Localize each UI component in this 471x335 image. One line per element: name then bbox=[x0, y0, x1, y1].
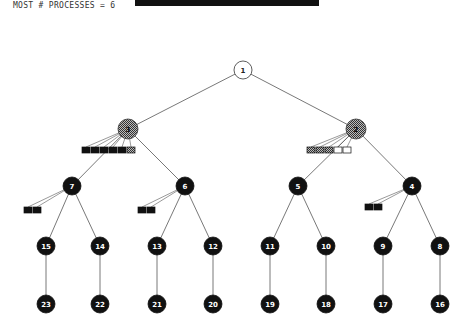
node-label: 16 bbox=[435, 301, 445, 309]
process-box-black bbox=[24, 207, 32, 213]
tree-node-9[interactable]: 9 bbox=[374, 237, 392, 255]
tree-node-13[interactable]: 13 bbox=[148, 237, 166, 255]
tree-edge bbox=[128, 129, 185, 186]
node-label: 23 bbox=[41, 301, 51, 309]
process-box-hatched bbox=[316, 147, 324, 153]
process-box-hatched bbox=[325, 147, 333, 153]
process-box-black bbox=[147, 207, 155, 213]
tree-node-14[interactable]: 14 bbox=[91, 237, 109, 255]
tree-node-11[interactable]: 11 bbox=[261, 237, 279, 255]
tree-edge bbox=[298, 186, 326, 246]
tree-edge bbox=[72, 186, 100, 246]
node-label: 3 bbox=[126, 126, 131, 134]
node-label: 6 bbox=[183, 183, 188, 191]
process-box-black bbox=[374, 204, 382, 210]
tree-node-21[interactable]: 21 bbox=[148, 295, 166, 313]
process-box-hatched bbox=[127, 147, 135, 153]
process-box-black bbox=[33, 207, 41, 213]
tree-node-15[interactable]: 15 bbox=[37, 237, 55, 255]
tree-node-1[interactable]: 1 bbox=[234, 61, 252, 79]
tree-node-10[interactable]: 10 bbox=[317, 237, 335, 255]
tree-edge bbox=[72, 129, 128, 186]
tree-node-3[interactable]: 3 bbox=[118, 119, 138, 139]
node-label: 17 bbox=[378, 301, 388, 309]
process-box-black bbox=[82, 147, 90, 153]
node-label: 21 bbox=[152, 301, 162, 309]
node-label: 11 bbox=[265, 243, 275, 251]
node-label: 10 bbox=[321, 243, 331, 251]
node-label: 1 bbox=[241, 67, 246, 75]
node-label: 22 bbox=[95, 301, 105, 309]
node-label: 13 bbox=[152, 243, 162, 251]
node-label: 12 bbox=[208, 243, 218, 251]
tree-edge bbox=[383, 186, 412, 246]
process-box-black bbox=[91, 147, 99, 153]
tree-edge bbox=[412, 186, 440, 246]
tree-node-12[interactable]: 12 bbox=[204, 237, 222, 255]
process-tree-diagram: 1327654151413121110982322212019181716 bbox=[0, 0, 471, 335]
process-box-black bbox=[100, 147, 108, 153]
tree-node-8[interactable]: 8 bbox=[431, 237, 449, 255]
process-box-empty bbox=[343, 147, 351, 153]
node-label: 14 bbox=[95, 243, 105, 251]
tree-edge bbox=[270, 186, 298, 246]
tree-node-2[interactable]: 2 bbox=[346, 119, 366, 139]
tree-node-6[interactable]: 6 bbox=[176, 177, 194, 195]
node-label: 9 bbox=[381, 243, 386, 251]
tree-node-22[interactable]: 22 bbox=[91, 295, 109, 313]
tree-node-17[interactable]: 17 bbox=[374, 295, 392, 313]
tree-edge bbox=[243, 70, 356, 129]
process-box-empty bbox=[334, 147, 342, 153]
process-box-black bbox=[118, 147, 126, 153]
tree-node-5[interactable]: 5 bbox=[289, 177, 307, 195]
node-label: 15 bbox=[41, 243, 51, 251]
tree-node-16[interactable]: 16 bbox=[431, 295, 449, 313]
node-label: 4 bbox=[410, 183, 415, 191]
node-label: 19 bbox=[265, 301, 275, 309]
process-box-black bbox=[138, 207, 146, 213]
node-label: 20 bbox=[208, 301, 218, 309]
tree-node-19[interactable]: 19 bbox=[261, 295, 279, 313]
tree-edge bbox=[356, 129, 412, 186]
node-label: 8 bbox=[438, 243, 443, 251]
node-label: 5 bbox=[296, 183, 301, 191]
tree-nodes: 1327654151413121110982322212019181716 bbox=[37, 61, 449, 313]
tree-node-7[interactable]: 7 bbox=[63, 177, 81, 195]
process-box-black bbox=[365, 204, 373, 210]
tree-edge bbox=[185, 186, 213, 246]
node-label: 2 bbox=[354, 126, 359, 134]
tree-edges bbox=[28, 70, 440, 304]
node-label: 18 bbox=[321, 301, 331, 309]
process-box-black bbox=[109, 147, 117, 153]
node-label: 7 bbox=[70, 183, 75, 191]
tree-edge bbox=[128, 70, 243, 129]
tree-edge bbox=[46, 186, 72, 246]
process-box-hatched bbox=[307, 147, 315, 153]
tree-node-18[interactable]: 18 bbox=[317, 295, 335, 313]
tree-node-23[interactable]: 23 bbox=[37, 295, 55, 313]
tree-edge bbox=[157, 186, 185, 246]
tree-node-20[interactable]: 20 bbox=[204, 295, 222, 313]
tree-node-4[interactable]: 4 bbox=[403, 177, 421, 195]
